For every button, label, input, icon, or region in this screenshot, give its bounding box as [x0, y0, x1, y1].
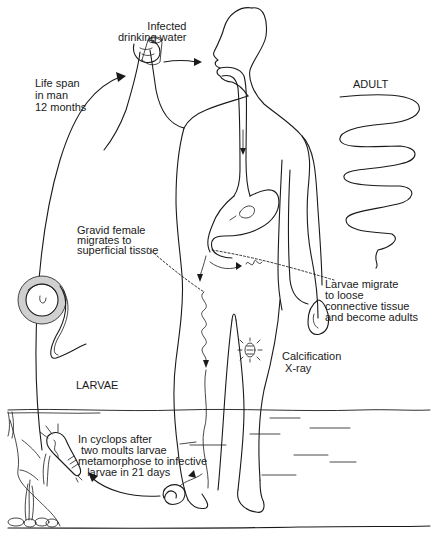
arrow-icon	[164, 58, 202, 66]
water-surface-icon	[8, 409, 430, 528]
infected-water-label: Infected drinking water	[118, 21, 186, 43]
calcified-worm-icon	[238, 338, 262, 362]
adult-label: ADULT	[353, 79, 388, 90]
calcification-label: Calcification X-ray	[282, 350, 341, 374]
larvae-label: LARVAE	[76, 380, 118, 391]
cyclops-copepod-icon	[40, 424, 82, 482]
digestive-tract-icon	[208, 67, 279, 258]
gravid-female-label: Gravid female migrates to superficial ti…	[77, 225, 158, 255]
larvae-migrate-label: Larvae migrate to loose connective tissu…	[325, 279, 418, 323]
cyclops-label: In cyclops after two moults larvae metam…	[78, 434, 207, 478]
dotted-pointer-icon	[148, 248, 334, 292]
arrow-icon	[36, 72, 126, 450]
adult-worm-icon	[340, 95, 420, 268]
larva-coiled-icon	[18, 276, 86, 358]
rocks-icon	[8, 412, 60, 527]
life-span-label: Life span in man 12 months	[35, 77, 86, 113]
